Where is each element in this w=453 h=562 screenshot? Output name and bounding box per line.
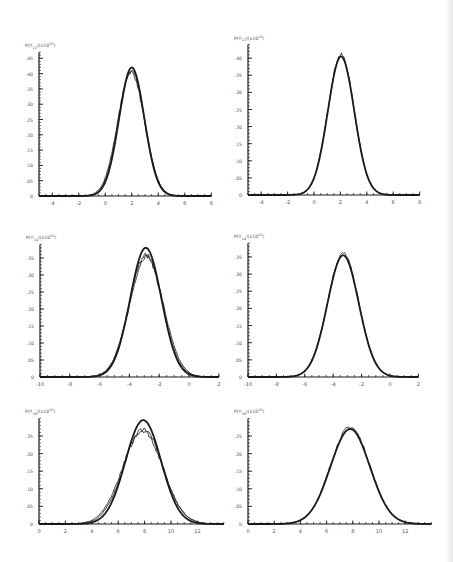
x-tick-label: 0 [187, 381, 190, 387]
curve-simulation [248, 252, 418, 377]
x-tick-label: 8 [143, 528, 146, 534]
y-tick-label: .20 [26, 133, 33, 138]
x-tick-label: 6 [325, 528, 328, 534]
x-tick-label: 4 [90, 528, 93, 534]
panel-p6: 0246810120.05.10.15.20.25P(Y16)(x1010) [234, 408, 431, 534]
curve-simulation [248, 427, 431, 524]
y-tick-label: 0 [239, 522, 242, 527]
y-tick-label: .20 [235, 452, 242, 457]
x-tick-label: 0 [388, 381, 391, 387]
curve-theory [39, 420, 224, 524]
y-tick-label: 0 [30, 522, 33, 527]
x-tick-label: 2 [217, 381, 220, 387]
y-tick-label: .05 [26, 179, 33, 184]
y-tick-label: .40 [235, 56, 242, 61]
x-tick-label: -2 [359, 381, 364, 387]
x-tick-label: 8 [210, 200, 213, 206]
scan-edge-shade [445, 0, 453, 562]
y-tick-label: .10 [26, 163, 33, 168]
x-tick-label: -10 [36, 381, 44, 387]
y-tick-label: .10 [235, 341, 242, 346]
y-tick-label: .35 [27, 256, 34, 261]
y-axis-label: P(Y14)(x1010) [26, 234, 56, 242]
x-tick-label: 4 [365, 199, 368, 205]
x-tick-label: 6 [183, 200, 186, 206]
y-tick-label: .35 [235, 73, 242, 78]
x-tick-label: -2 [76, 200, 81, 206]
y-tick-label: .05 [26, 504, 33, 509]
x-tick-label: 6 [392, 199, 395, 205]
distribution-plots: -4-2024680.05.10.15.20.25.30.35.40.45P(Y… [0, 0, 453, 562]
x-tick-label: 0 [37, 528, 40, 534]
y-tick-label: .20 [27, 307, 34, 312]
x-tick-label: 2 [417, 381, 420, 387]
y-axis-label: P(Y16)(x1010) [25, 408, 55, 416]
y-tick-label: .10 [26, 487, 33, 492]
x-tick-label: 8 [418, 199, 421, 205]
x-tick-label: -8 [67, 381, 72, 387]
y-tick-label: .30 [26, 102, 33, 107]
curve-theory [40, 248, 219, 377]
y-tick-label: .05 [27, 358, 34, 363]
x-tick-label: -4 [331, 381, 336, 387]
x-tick-label: 10 [168, 528, 174, 534]
y-tick-label: .10 [27, 341, 34, 346]
x-tick-label: 2 [339, 199, 342, 205]
x-tick-label: 8 [351, 528, 354, 534]
y-tick-label: .05 [235, 504, 242, 509]
y-tick-label: .15 [235, 324, 242, 329]
curve-simulation [248, 53, 420, 195]
y-tick-label: .30 [235, 90, 242, 95]
y-tick-label: .45 [26, 56, 33, 61]
panel-p3: -10-8-6-4-2020.05.10.15.20.25.30.35P(Y14… [26, 234, 220, 387]
curve-theory [248, 57, 420, 195]
panel-p4: -10-8-6-4-2020.05.10.15.20.25.30.35P(Y14… [234, 233, 420, 387]
x-tick-label: 6 [117, 528, 120, 534]
x-tick-label: -4 [259, 199, 264, 205]
y-tick-label: .15 [235, 469, 242, 474]
y-tick-label: .25 [235, 289, 242, 294]
y-tick-label: 0 [31, 375, 34, 380]
y-tick-label: .25 [26, 118, 33, 123]
x-tick-label: 10 [376, 528, 382, 534]
y-axis-label: P(Y14)(x1010) [234, 233, 264, 241]
y-axis-label: P(Y16)(x1010) [234, 408, 264, 416]
x-tick-label: -6 [97, 381, 102, 387]
x-tick-label: 4 [299, 528, 302, 534]
x-tick-label: -8 [274, 381, 279, 387]
x-tick-label: 0 [104, 200, 107, 206]
x-tick-label: 2 [273, 528, 276, 534]
y-tick-label: .20 [26, 452, 33, 457]
y-tick-label: .35 [235, 255, 242, 260]
y-tick-label: 0 [30, 194, 33, 199]
y-tick-label: .30 [235, 272, 242, 277]
y-tick-label: .35 [26, 87, 33, 92]
y-tick-label: .30 [27, 273, 34, 278]
x-tick-label: 0 [246, 528, 249, 534]
x-tick-label: 0 [312, 199, 315, 205]
x-tick-label: -2 [157, 381, 162, 387]
y-tick-label: .25 [27, 290, 34, 295]
y-tick-label: .15 [26, 469, 33, 474]
x-tick-label: 4 [157, 200, 160, 206]
x-tick-label: 12 [402, 528, 408, 534]
y-tick-label: .25 [235, 434, 242, 439]
y-tick-label: .20 [235, 125, 242, 130]
y-tick-label: 0 [239, 375, 242, 380]
y-tick-label: .05 [235, 176, 242, 181]
x-tick-label: 2 [130, 200, 133, 206]
panel-p1: -4-2024680.05.10.15.20.25.30.35.40.45P(Y… [25, 42, 213, 206]
curve-theory [248, 429, 431, 524]
y-tick-label: .20 [235, 306, 242, 311]
y-tick-label: .15 [27, 324, 34, 329]
x-tick-label: -4 [127, 381, 132, 387]
x-tick-label: -4 [50, 200, 55, 206]
x-tick-label: -2 [285, 199, 290, 205]
x-tick-label: 12 [194, 528, 200, 534]
x-tick-label: -6 [302, 381, 307, 387]
curve-simulation-a [40, 253, 219, 377]
y-tick-label: .25 [26, 434, 33, 439]
curve-simulation-b [39, 431, 224, 524]
figure: -4-2024680.05.10.15.20.25.30.35.40.45P(Y… [0, 0, 453, 562]
x-tick-label: 2 [64, 528, 67, 534]
